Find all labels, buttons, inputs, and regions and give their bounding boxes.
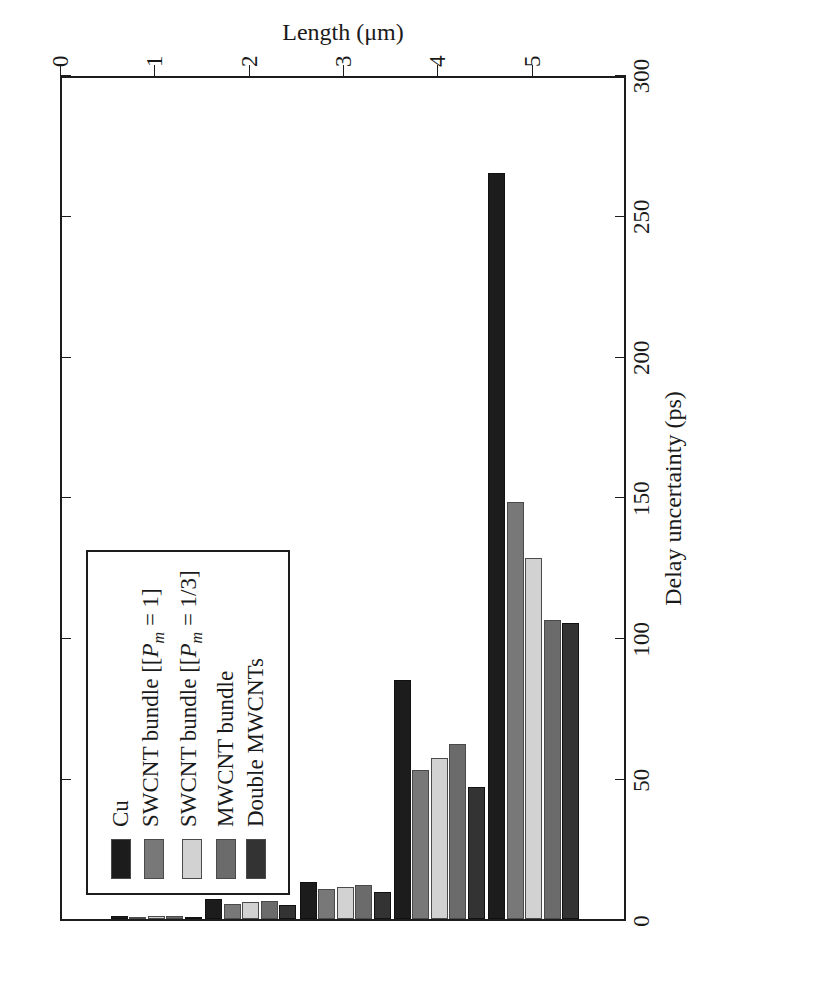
bar — [394, 680, 411, 919]
bar — [148, 916, 165, 919]
y-axis-tick-label: 100 — [630, 622, 653, 657]
y-axis-tick-label: 0 — [630, 915, 653, 927]
x-axis-tick-label: 2 — [237, 56, 260, 68]
x-axis-tick-label: 1 — [143, 56, 166, 68]
bar — [279, 905, 296, 919]
y-axis-title: Delay uncertainty (ps) — [660, 76, 687, 921]
bar — [318, 889, 335, 919]
x-axis-tick-label: 0 — [49, 56, 72, 68]
chart-figure: 300250200150100500 Delay uncertainty (ps… — [0, 0, 815, 1007]
bar — [468, 787, 485, 919]
bar — [205, 899, 222, 919]
bar — [300, 882, 317, 919]
bar — [525, 558, 542, 919]
legend-swatch — [182, 839, 202, 879]
bar — [111, 916, 128, 919]
x-axis-tick-label: 4 — [426, 56, 449, 68]
legend-label: SWCNT bundle [[Pm = 1/3] — [177, 570, 208, 827]
y-axis-tick-label: 200 — [630, 340, 653, 375]
bar — [374, 892, 391, 919]
y-axis-tick-label: 300 — [630, 59, 653, 94]
bar — [449, 744, 466, 919]
legend-item: MWCNT bundle — [214, 570, 237, 879]
bar — [224, 904, 241, 919]
bar — [355, 885, 372, 919]
bar — [242, 902, 259, 919]
bar — [412, 770, 429, 919]
bar — [544, 620, 561, 919]
legend-item: Double MWCNTs — [244, 570, 267, 879]
bar — [185, 917, 202, 919]
legend-box: CuSWCNT bundle [[Pm = 1]SWCNT bundle [[P… — [86, 550, 290, 895]
bar — [337, 887, 354, 919]
bar — [507, 502, 524, 919]
y-axis-tick-label: 50 — [630, 769, 653, 792]
legend-label: Double MWCNTs — [244, 658, 267, 827]
legend-swatch — [111, 839, 131, 879]
legend-swatch — [216, 839, 236, 879]
figure-page: 300250200150100500 Delay uncertainty (ps… — [0, 0, 815, 1007]
x-axis-tick-label: 3 — [332, 56, 355, 68]
y-axis-tick-label: 150 — [630, 481, 653, 516]
bar — [431, 758, 448, 919]
legend-label: MWCNT bundle — [214, 671, 237, 827]
bar — [129, 917, 146, 919]
y-axis-tick-label: 250 — [630, 200, 653, 235]
legend-item: Cu — [109, 570, 132, 879]
legend-item: SWCNT bundle [[Pm = 1] — [139, 570, 170, 879]
legend-item: SWCNT bundle [[Pm = 1/3] — [177, 570, 208, 879]
x-axis-tick-label: 5 — [520, 56, 543, 68]
legend-swatch — [144, 839, 164, 879]
bar — [562, 623, 579, 919]
bar — [488, 173, 505, 919]
bar — [261, 901, 278, 919]
x-axis-title: Length (μm) — [282, 19, 404, 46]
legend-label: SWCNT bundle [[Pm = 1] — [139, 588, 170, 827]
legend-swatch — [246, 839, 266, 879]
bar — [166, 916, 183, 919]
legend-label: Cu — [109, 800, 132, 827]
rotation-wrapper: 300250200150100500 Delay uncertainty (ps… — [0, 0, 815, 1007]
